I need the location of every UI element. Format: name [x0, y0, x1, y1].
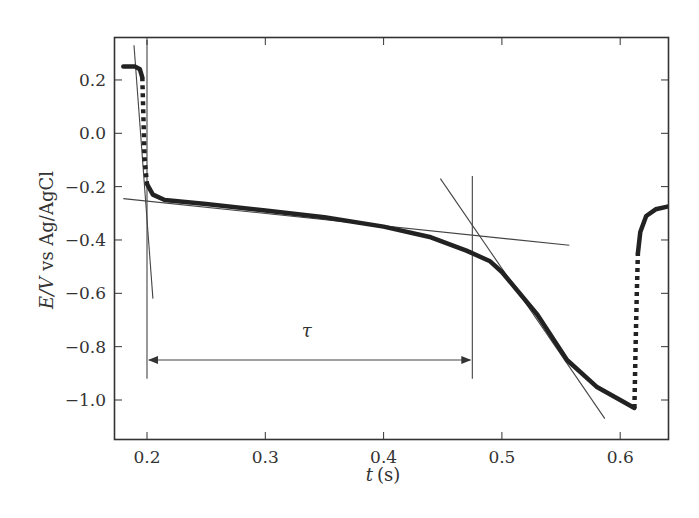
y-tick-label: 0.2	[79, 70, 106, 90]
data-series-current-reversal-jump	[634, 253, 638, 408]
x-tick-label: 0.3	[252, 447, 279, 467]
data-series-chronopotentiogram	[123, 67, 142, 78]
x-axis-ticks: 0.20.30.40.50.6	[133, 38, 633, 467]
y-tick-label: −0.2	[65, 177, 106, 197]
plot-content	[123, 40, 667, 419]
chronopotentiometry-chart: 0.20.30.40.50.6 0.20.0−0.2−0.4−0.6−0.8−1…	[0, 0, 699, 518]
y-tick-label: −0.4	[65, 230, 106, 250]
y-tick-label: 0.0	[79, 123, 106, 143]
x-axis-label: t(s)	[366, 464, 401, 485]
y-axis-label: E/Vvs Ag/AgCl	[36, 171, 57, 310]
y-tick-label: −0.8	[65, 337, 106, 357]
tau-annotation: τ	[302, 320, 313, 341]
x-tick-label: 0.5	[488, 447, 515, 467]
x-tick-label: 0.6	[607, 447, 634, 467]
y-tick-label: −1.0	[65, 390, 106, 410]
data-series-recovery	[638, 207, 668, 254]
arrow-left-icon	[148, 356, 158, 364]
x-tick-label: 0.2	[133, 447, 160, 467]
data-series-transition-plateau	[147, 184, 634, 408]
y-tick-label: −0.6	[65, 283, 106, 303]
tangent-line	[134, 45, 153, 298]
arrow-right-icon	[461, 356, 471, 364]
